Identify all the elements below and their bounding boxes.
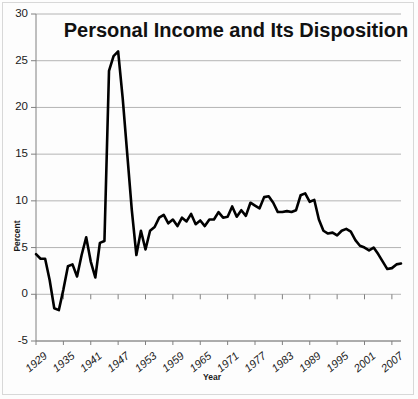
gridlines-group bbox=[36, 14, 401, 341]
chart-title: Personal Income and Its Disposition bbox=[64, 19, 409, 41]
x-tick-label: 2007 bbox=[378, 349, 406, 375]
x-tick-label: 1965 bbox=[187, 349, 214, 374]
x-tick-label: 1929 bbox=[23, 349, 49, 374]
y-tick-label: 0 bbox=[22, 287, 28, 299]
x-axis-title: Year bbox=[203, 372, 222, 382]
x-tick-label: 1941 bbox=[78, 349, 104, 374]
x-tick-labels-group: 1929193519411947195319591965197119771983… bbox=[23, 349, 406, 375]
x-tick-label: 1989 bbox=[297, 349, 323, 374]
axes-group bbox=[36, 14, 401, 341]
plot-area: 302520151050-5 1929193519411947195319591… bbox=[0, 0, 418, 399]
y-tick-label: 30 bbox=[15, 7, 28, 19]
y-tick-label: -5 bbox=[18, 334, 28, 346]
y-tick-labels-group: 302520151050-5 bbox=[15, 7, 28, 346]
x-tick-label: 2001 bbox=[351, 349, 378, 375]
line-chart-svg: 302520151050-5 1929193519411947195319591… bbox=[0, 0, 418, 399]
y-tick-label: 20 bbox=[15, 100, 28, 112]
y-tick-label: 15 bbox=[15, 147, 28, 159]
x-tick-label: 1983 bbox=[269, 349, 296, 374]
x-tick-label: 1977 bbox=[242, 349, 269, 374]
x-tick-label: 1953 bbox=[132, 349, 159, 374]
x-tick-label: 1935 bbox=[50, 349, 77, 374]
y-tick-label: 10 bbox=[15, 194, 28, 206]
tickmarks-group bbox=[31, 14, 392, 345]
x-tick-label: 1959 bbox=[160, 349, 186, 374]
chart-figure: 302520151050-5 1929193519411947195319591… bbox=[0, 0, 418, 399]
series-line bbox=[36, 51, 401, 310]
data-series-group bbox=[36, 51, 401, 310]
y-axis-title: Percent bbox=[12, 220, 22, 251]
x-tick-label: 1971 bbox=[214, 349, 240, 374]
y-tick-label: 5 bbox=[22, 241, 28, 253]
x-tick-label: 1995 bbox=[324, 349, 351, 374]
x-tick-label: 1947 bbox=[105, 349, 132, 374]
y-tick-label: 25 bbox=[15, 54, 28, 66]
